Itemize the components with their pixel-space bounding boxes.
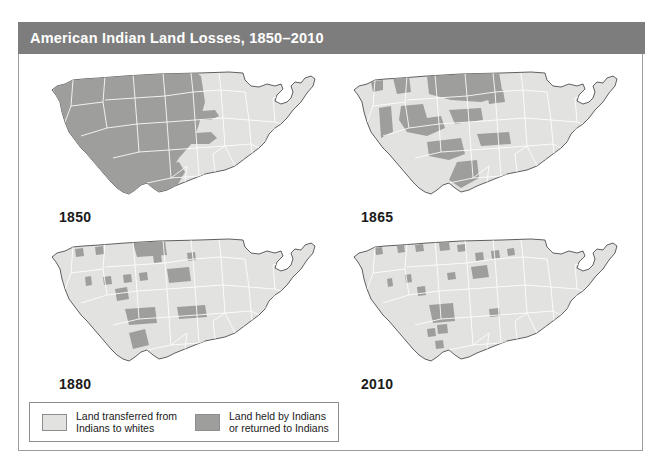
map-svg-2010: [331, 229, 621, 369]
year-label-2010: 2010: [361, 376, 393, 392]
legend-item-land-held: Land held by Indians or returned to Indi…: [195, 403, 329, 441]
year-label-1850: 1850: [59, 209, 91, 225]
legend-swatch-land-transferred: [42, 414, 67, 431]
held-region-washington: [375, 247, 383, 255]
legend-label-land-transferred: Land transferred from Indians to whites: [76, 410, 177, 435]
held-region-washington: [371, 80, 383, 92]
held-region-great-sioux: [167, 267, 191, 283]
held-region-california-small: [85, 276, 92, 286]
held-region-utah-small: [123, 274, 132, 283]
held-region-fort-peck: [457, 244, 466, 252]
held-region-arizona-south: [435, 340, 444, 349]
held-region-blackfeet: [439, 242, 450, 251]
map-panel-1865: 1865: [331, 62, 621, 227]
held-region-wisconsin: [507, 248, 515, 256]
map-svg-1850: [29, 62, 319, 202]
held-region-navajo-nation: [429, 303, 455, 323]
held-region-montana-north: [133, 241, 167, 257]
figure-title-bar: American Indian Land Losses, 1850–2010: [18, 22, 645, 54]
held-region-indian-territory: [177, 305, 207, 319]
held-region-idaho-small: [95, 246, 104, 255]
map-panel-2010: 2010: [331, 229, 621, 394]
map-panel-1880: 1880: [29, 229, 319, 394]
held-region-montana-flathead: [415, 244, 424, 252]
map-panel-1850: 1850: [29, 62, 319, 227]
held-region-wyoming-small: [139, 272, 148, 281]
year-label-1880: 1880: [59, 376, 91, 392]
held-region-wind-river: [447, 272, 456, 280]
held-region-uintah-ouray: [417, 286, 426, 296]
held-region-pine-ridge-rosebud: [471, 265, 489, 279]
figure-container: American Indian Land Losses, 1850–2010: [0, 0, 663, 471]
held-region-dakota-small: [153, 254, 162, 263]
legend-item-land-transferred: Land transferred from Indians to whites: [42, 403, 177, 441]
legend-label-land-held: Land held by Indians or returned to Indi…: [229, 410, 329, 435]
held-region-idaho: [397, 245, 405, 253]
year-label-1865: 1865: [361, 209, 393, 225]
figure-title: American Indian Land Losses, 1850–2010: [18, 30, 324, 46]
held-region-san-carlos: [437, 324, 448, 334]
held-region-indian-territory: [477, 132, 511, 146]
map-svg-1865: [331, 62, 621, 202]
legend-swatch-land-held: [195, 414, 220, 431]
map-legend: Land transferred from Indians to whites …: [29, 402, 339, 442]
held-region-tohono-oodham: [427, 328, 436, 337]
held-region-standing-rock: [475, 252, 484, 261]
held-region-california: [387, 278, 393, 287]
held-region-navajo-apache: [125, 307, 157, 325]
held-region-washington-small: [75, 248, 84, 257]
map-svg-1880: [29, 229, 319, 369]
held-region-minnesota: [491, 250, 500, 259]
figure-content-panel: 1850: [18, 54, 643, 451]
